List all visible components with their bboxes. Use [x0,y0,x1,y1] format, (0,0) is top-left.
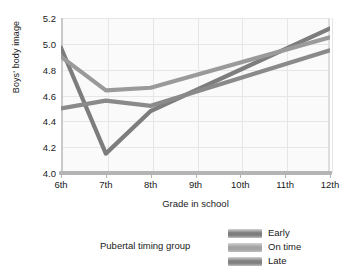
x-axis-tick-label: 9th [189,179,202,190]
y-axis-tick-label: 4.6 [20,90,56,101]
legend-color-swatch [228,257,262,266]
x-axis-tick-label: 8th [144,179,157,190]
x-axis-tick-label: 6th [54,179,67,190]
x-axis-tick-mark [61,173,62,178]
y-axis-tick-label: 5.2 [20,13,56,24]
legend-item[interactable]: On time [228,240,343,254]
x-axis-tick-label: 11th [276,179,294,190]
legend-caption: Pubertal timing group [100,240,190,251]
line-chart-figure: Boys' body image 5.25.04.84.64.44.24.0 6… [0,0,350,274]
x-axis-tick-mark [196,173,197,178]
y-axis-tick-label: 4.4 [20,116,56,127]
x-axis-tick-mark [151,173,152,178]
data-series-layer [61,18,330,173]
legend-color-swatch [228,229,262,238]
y-axis-tick-label: 4.2 [20,142,56,153]
legend: Pubertal timing group EarlyOn timeLate [100,226,345,270]
legend-item[interactable]: Early [228,226,343,240]
y-axis-tick-label: 5.0 [20,38,56,49]
x-axis-tick-mark [106,173,107,178]
x-axis-tick-mark [330,173,331,178]
x-axis-title: Grade in school [61,198,330,209]
x-axis-tick-mark [285,173,286,178]
y-axis-tick-labels: 5.25.04.84.64.44.24.0 [20,18,56,173]
legend-item-label: On time [268,242,301,252]
x-axis-tick-label: 12th [321,179,340,190]
legend-item-label: Late [268,256,287,266]
gridline-vertical [332,18,333,173]
y-axis-tick-label: 4.0 [20,168,56,179]
x-axis-tick-label: 10th [231,179,250,190]
x-axis-tick-labels: 6th7th8th9th10th11th12th [61,179,330,193]
legend-item[interactable]: Late [228,254,343,268]
legend-items: EarlyOn timeLate [228,226,343,268]
x-axis-tick-label: 7th [99,179,112,190]
legend-color-swatch [228,243,262,252]
legend-item-label: Early [268,228,290,238]
data-series-line [61,50,330,108]
y-axis-tick-label: 4.8 [20,64,56,75]
x-axis-tick-mark [240,173,241,178]
